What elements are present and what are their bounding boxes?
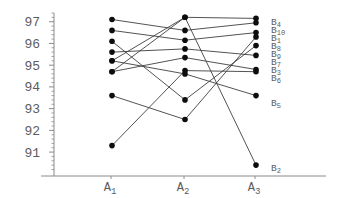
data-point (182, 14, 188, 20)
y-tick-label: 93 (24, 102, 40, 117)
data-point (182, 97, 188, 103)
y-tick-label: 92 (24, 124, 40, 139)
data-point (253, 162, 259, 168)
data-point (109, 69, 115, 75)
data-point (109, 49, 115, 55)
data-point (253, 20, 259, 26)
data-point (182, 37, 188, 43)
series-line (112, 71, 256, 146)
x-tick-label: A3 (248, 181, 261, 197)
series-label: B5 (271, 98, 281, 110)
data-point (253, 43, 259, 49)
data-point (182, 28, 188, 34)
y-tick-label: 91 (24, 146, 40, 161)
x-tick-label: A1 (104, 181, 117, 197)
data-point (182, 117, 188, 123)
data-point (109, 93, 115, 99)
interaction-plot-figure: 97969594939291A1A2A3B4B10B1B8B9B7B3B6B5B… (0, 0, 343, 198)
data-point (253, 53, 259, 59)
data-point (182, 46, 188, 52)
chart-canvas: 97969594939291A1A2A3B4B10B1B8B9B7B3B6B5B… (0, 0, 343, 198)
y-tick-label: 96 (24, 37, 40, 52)
y-tick-label: 94 (24, 80, 40, 95)
y-tick-label: 97 (24, 15, 40, 30)
data-point (182, 55, 188, 61)
x-tick-label: A2 (177, 181, 190, 197)
data-point (109, 58, 115, 64)
data-point (109, 17, 115, 23)
data-point (109, 28, 115, 34)
data-point (253, 34, 259, 40)
y-tick-label: 95 (24, 59, 40, 74)
data-point (109, 143, 115, 149)
series-label: B2 (271, 163, 281, 175)
data-point (253, 93, 259, 99)
data-point (182, 71, 188, 77)
data-point (109, 39, 115, 45)
data-point (253, 69, 259, 75)
